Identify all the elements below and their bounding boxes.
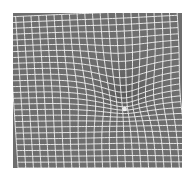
spacetime-grid-graphic (13, 13, 182, 168)
warped-grid-image (13, 13, 182, 168)
well-center-highlight (123, 107, 127, 111)
